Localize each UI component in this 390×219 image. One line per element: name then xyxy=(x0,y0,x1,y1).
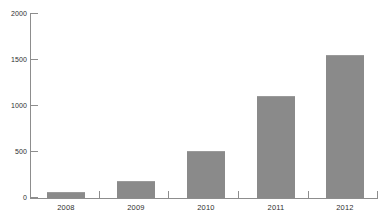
bar-top-highlight xyxy=(117,181,155,182)
y-axis-label-500-wrap: 500 xyxy=(0,148,27,155)
y-axis-label-1000: 1000 xyxy=(1,102,27,109)
x-axis-label-2008: 2008 xyxy=(45,203,87,212)
y-axis-tick-1000 xyxy=(31,105,38,106)
x-axis-tick-1 xyxy=(99,191,100,198)
bar-top-highlight xyxy=(187,151,225,152)
y-axis-label-0-wrap: 0 xyxy=(0,194,27,201)
x-axis-label-2011: 2011 xyxy=(255,203,297,212)
y-axis-label-0: 0 xyxy=(1,194,27,201)
bar-2011 xyxy=(257,96,295,198)
y-axis-label-1500-wrap: 1500 xyxy=(0,56,27,63)
bar-top-highlight xyxy=(257,96,295,97)
bar-top-highlight xyxy=(326,55,364,56)
y-axis-label-1500: 1500 xyxy=(1,56,27,63)
bar-chart: 2000 1500 1000 500 0 2008 2009 2010 2011… xyxy=(0,0,390,219)
x-axis-tick-5 xyxy=(377,191,378,198)
x-axis-line xyxy=(30,198,378,199)
x-axis-label-2010: 2010 xyxy=(185,203,227,212)
bar-2009 xyxy=(117,181,155,198)
y-axis-tick-1500 xyxy=(31,59,38,60)
y-axis-tick-500 xyxy=(31,151,38,152)
x-axis-tick-2 xyxy=(168,191,169,198)
y-axis-line xyxy=(30,13,31,199)
x-axis-label-2009: 2009 xyxy=(115,203,157,212)
y-axis-label-500: 500 xyxy=(1,148,27,155)
bar-2008 xyxy=(47,192,85,198)
y-axis-tick-0 xyxy=(31,197,38,198)
y-axis-label-2000-wrap: 2000 xyxy=(0,10,27,17)
bar-2010 xyxy=(187,151,225,198)
x-axis-tick-4 xyxy=(308,191,309,198)
x-axis-tick-3 xyxy=(238,191,239,198)
x-axis-label-2012: 2012 xyxy=(324,203,366,212)
y-axis-tick-2000 xyxy=(31,13,38,14)
bar-top-highlight xyxy=(47,192,85,193)
y-axis-label-2000: 2000 xyxy=(1,10,27,17)
bar-2012 xyxy=(326,55,364,198)
y-axis-label-1000-wrap: 1000 xyxy=(0,102,27,109)
